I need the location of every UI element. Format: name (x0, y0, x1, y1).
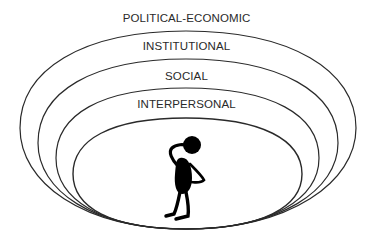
label-social: SOCIAL (0, 70, 373, 82)
label-political-economic: POLITICAL-ECONOMIC (0, 12, 373, 24)
label-institutional: INSTITUTIONAL (0, 40, 373, 52)
person-scratching-head-icon (162, 132, 212, 222)
label-interpersonal: INTERPERSONAL (0, 98, 373, 110)
